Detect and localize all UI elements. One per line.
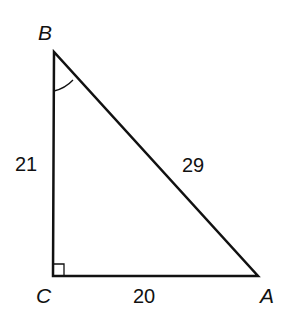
triangle-abc — [53, 52, 258, 276]
angle-arc-b — [54, 80, 73, 91]
side-label-bc: 21 — [15, 153, 37, 175]
side-label-ba: 29 — [182, 154, 204, 176]
vertex-label-b: B — [38, 21, 52, 44]
triangle-diagram: B C A 21 29 20 — [0, 0, 288, 319]
vertex-label-a: A — [258, 284, 274, 307]
vertex-label-c: C — [36, 284, 52, 307]
right-angle-mark-c — [53, 264, 64, 276]
side-label-ca: 20 — [133, 285, 155, 307]
